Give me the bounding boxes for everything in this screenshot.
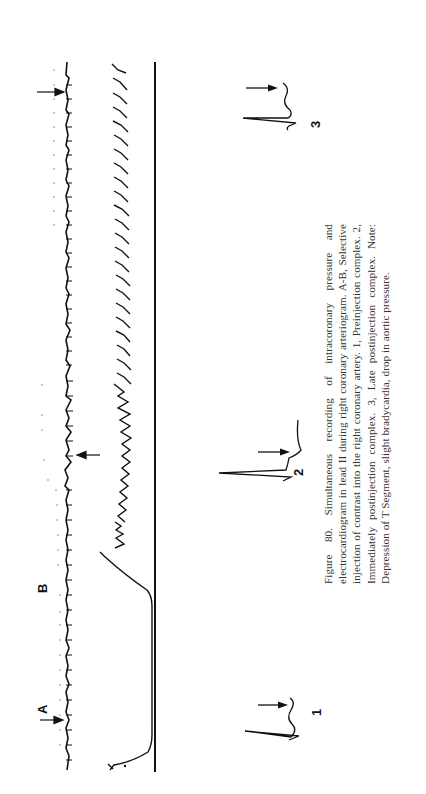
inset-complex-2 (219, 420, 301, 481)
inset-3-label: 3 (308, 121, 323, 128)
time-marker-dots (41, 69, 61, 746)
marker-a-label: A (35, 704, 50, 714)
arrow-icon (37, 89, 64, 96)
inset-2-label: 2 (291, 469, 306, 476)
ecg-trace (65, 62, 71, 770)
figure-caption: Figure 80. Simultaneous recording of int… (321, 224, 392, 584)
figure-number: Figure 80. (322, 528, 334, 584)
inset-complex-3 (243, 83, 296, 130)
pressure-trace (100, 64, 152, 770)
inset-complex-1 (245, 698, 299, 740)
marker-b-label: B (35, 584, 50, 593)
document-page: A B 1 2 3 Figure 80. Simultaneous record… (0, 0, 426, 794)
marker-a-arrow-icon (40, 717, 63, 724)
arrow-icon (77, 452, 100, 459)
inset-1-label: 1 (309, 709, 324, 716)
